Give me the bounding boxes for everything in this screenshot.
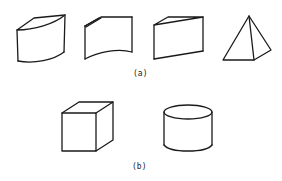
curved-sheet-shape <box>85 17 132 59</box>
wedge-shape <box>154 17 203 59</box>
figure-canvas <box>0 0 282 181</box>
cube-shape <box>62 102 113 151</box>
caption-b: (b) <box>132 163 146 171</box>
curved-block-shape <box>17 15 65 62</box>
pyramid-shape <box>223 16 271 60</box>
caption-a: (a) <box>133 70 147 78</box>
cylinder-shape <box>164 105 212 151</box>
